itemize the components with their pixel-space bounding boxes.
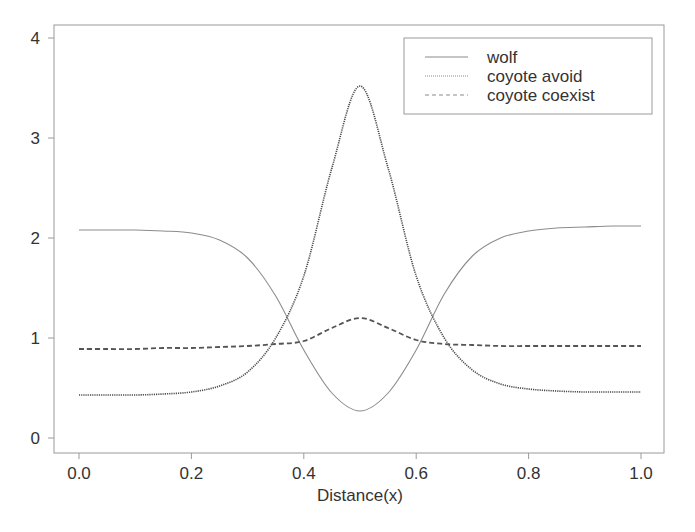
legend-label-coyote-coexist: coyote coexist <box>487 86 595 105</box>
legend-label-wolf: wolf <box>486 48 518 67</box>
x-axis: 0.00.20.40.60.81.0 <box>67 453 653 483</box>
y-tick-label: 4 <box>31 29 40 48</box>
y-axis: 01234 <box>31 29 54 448</box>
series-layer <box>79 86 641 411</box>
x-tick-label: 0.8 <box>517 464 541 483</box>
x-tick-label: 0.6 <box>404 464 428 483</box>
y-tick-label: 2 <box>31 229 40 248</box>
x-tick-label: 1.0 <box>629 464 653 483</box>
series-wolf <box>79 226 641 411</box>
x-tick-label: 0.0 <box>67 464 91 483</box>
legend-label-coyote-avoid: coyote avoid <box>487 67 582 86</box>
legend: wolf coyote avoid coyote coexist <box>404 38 652 114</box>
line-chart: 01234 0.00.20.40.60.81.0 Distance(x) wol… <box>0 0 695 532</box>
x-tick-label: 0.2 <box>180 464 204 483</box>
y-tick-label: 3 <box>31 129 40 148</box>
x-tick-label: 0.4 <box>292 464 316 483</box>
x-axis-label: Distance(x) <box>317 486 403 505</box>
y-tick-label: 0 <box>31 429 40 448</box>
series-coyote-coexist <box>79 318 641 349</box>
y-tick-label: 1 <box>31 329 40 348</box>
